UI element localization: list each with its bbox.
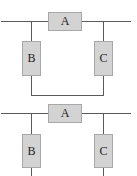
branch-b-top xyxy=(31,21,32,41)
main-wire-left xyxy=(1,113,49,114)
component-b: B xyxy=(22,41,41,76)
main-wire-left xyxy=(1,21,49,22)
main-wire-right xyxy=(81,113,131,114)
branch-c-bottom xyxy=(103,76,104,96)
branch-b-bottom xyxy=(31,168,32,176)
bottom-connector xyxy=(31,95,104,96)
component-c: C xyxy=(94,134,113,168)
branch-c-bottom xyxy=(103,168,104,176)
branch-c-top xyxy=(103,113,104,134)
branch-b-bottom xyxy=(31,76,32,96)
main-wire-right xyxy=(81,21,131,22)
component-c: C xyxy=(94,41,113,76)
branch-b-top xyxy=(31,113,32,134)
component-b: B xyxy=(22,134,41,168)
branch-c-top xyxy=(103,21,104,41)
component-a: A xyxy=(48,12,82,31)
component-a: A xyxy=(48,104,82,123)
